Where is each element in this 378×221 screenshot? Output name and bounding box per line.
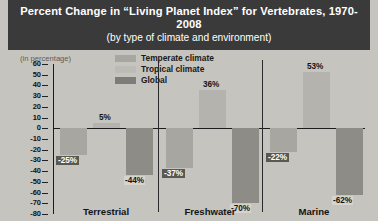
chart-subtitle: (by type of climate and environment) [107, 32, 272, 44]
group-freshwater: -37% 36% -70% Freshwater [158, 50, 262, 221]
bar-label-marine-global: -62% [332, 196, 353, 205]
y-tick-mark [42, 150, 48, 151]
bar-freshwater-global [232, 128, 259, 203]
y-tick-label: -60 [30, 189, 41, 197]
bar-freshwater-temperate [166, 128, 193, 168]
bar-label-marine-temperate: -22% [266, 153, 289, 162]
bar-terrestrial-tropical [93, 123, 120, 128]
chart-page: Percent Change in “Living Planet Index” … [0, 0, 378, 221]
bar-marine-tropical [303, 72, 330, 129]
bar-label-freshwater-temperate: -37% [162, 169, 185, 178]
group-separator-1 [158, 60, 159, 212]
y-tick-mark [42, 160, 48, 161]
y-tick-mark [42, 182, 48, 183]
group-label-terrestrial: Terrestrial [54, 206, 158, 217]
y-tick-mark [42, 75, 48, 76]
y-tick-label: 40 [33, 82, 41, 90]
y-tick-label: 60 [33, 60, 41, 68]
group-marine: -22% 53% -62% Marine [262, 50, 366, 221]
bar-label-freshwater-tropical: 36% [203, 80, 219, 89]
y-tick-label: -80 [30, 210, 41, 218]
bar-label-terrestrial-tropical: 5% [99, 113, 111, 122]
y-tick-label: 50 [33, 71, 41, 79]
chart-title-banner: Percent Change in “Living Planet Index” … [8, 0, 370, 50]
y-tick-mark [42, 96, 48, 97]
bar-terrestrial-global [126, 128, 153, 175]
y-tick-mark [42, 171, 48, 172]
y-tick-label: 0 [37, 125, 41, 133]
y-tick-mark [42, 193, 48, 194]
y-tick-mark [42, 107, 48, 108]
page-title: Percent Change in “Living Planet Index” … [14, 5, 364, 30]
bar-marine-temperate [270, 128, 297, 152]
bar-label-marine-tropical: 53% [307, 62, 323, 71]
y-tick-mark [42, 85, 48, 86]
plot-area: (in percentage) Temperate climate Tropic… [8, 50, 370, 221]
y-tick-mark [42, 203, 48, 204]
bar-groups: -25% 5% -44% Terrestrial -37% 36% -70% F… [54, 50, 366, 221]
y-tick-mark [42, 64, 48, 65]
y-tick-mark [42, 214, 48, 215]
y-tick-label: 20 [33, 103, 41, 111]
group-label-marine: Marine [262, 206, 366, 217]
y-tick-label: -10 [30, 135, 41, 143]
y-tick-label: -50 [30, 178, 41, 186]
bar-marine-global [336, 128, 363, 194]
y-tick-mark [42, 139, 48, 140]
y-tick-label: -20 [30, 146, 41, 154]
group-label-freshwater: Freshwater [158, 206, 262, 217]
y-tick-label: -40 [30, 167, 41, 175]
group-terrestrial: -25% 5% -44% Terrestrial [54, 50, 158, 221]
y-tick-mark [42, 128, 48, 129]
y-axis: 6050403020100-10-20-30-40-50-60-70-80 [8, 50, 54, 221]
group-separator-2 [262, 60, 263, 212]
y-tick-label: -30 [30, 157, 41, 165]
y-tick-label: 30 [33, 92, 41, 100]
bar-freshwater-tropical [199, 90, 226, 129]
y-tick-mark [42, 118, 48, 119]
bar-label-terrestrial-global: -44% [124, 176, 145, 185]
bar-terrestrial-temperate [60, 128, 87, 155]
y-tick-label: -70 [30, 200, 41, 208]
bar-label-terrestrial-temperate: -25% [56, 156, 79, 165]
y-tick-label: 10 [33, 114, 41, 122]
